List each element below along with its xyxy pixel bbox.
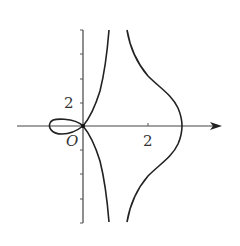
origin-point — [81, 124, 85, 128]
origin-label: O — [66, 132, 78, 150]
curve-inner-branch-upper — [83, 30, 109, 126]
curve-inner-branch-lower — [83, 126, 109, 222]
x-tick-label-2: 2 — [143, 132, 153, 150]
y-tick-label-2: 2 — [64, 94, 74, 112]
curve-plot: 2 2 O — [0, 0, 240, 246]
